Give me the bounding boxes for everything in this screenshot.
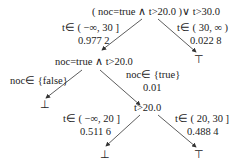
leaf-false-n3-left: ⊥ (100, 150, 110, 161)
leaf-true-top-right: ⊤ (194, 55, 204, 66)
node-noc-and-t: noc=true ∧ t>20.0 (55, 57, 133, 68)
n3-right-condition: t∈ ( 20, 30 ] (175, 114, 229, 125)
root-left-probability: 0.977 2 (78, 36, 110, 47)
root-right-condition: t∈ ( 30, ∞ ) (177, 23, 228, 34)
node-t-gt-20: t>20.0 (134, 103, 161, 114)
root-node: ( noc=true ∧ t>20.0 )∨ t>30.0 (92, 7, 220, 18)
leaf-false-n2-left: ⊥ (40, 100, 50, 111)
n3-right-probability: 0.488 4 (187, 127, 219, 138)
n3-left-probability: 0.511 6 (80, 127, 111, 138)
n2-right-probability: 0.01 (143, 83, 161, 94)
n2-left-condition: noc∈ {false} (10, 76, 68, 87)
leaf-true-n3-right: ⊤ (194, 150, 204, 161)
decision-tree-diagram: ( noc=true ∧ t>20.0 )∨ t>30.0 t∈ ( −∞, 3… (0, 0, 233, 166)
n2-right-condition: noc∈ {true} (126, 70, 180, 81)
root-right-probability: 0.022 8 (190, 36, 222, 47)
root-left-condition: t∈ ( −∞, 30 ] (62, 23, 119, 34)
n3-left-condition: t∈ ( −∞, 20 ] (63, 114, 120, 125)
